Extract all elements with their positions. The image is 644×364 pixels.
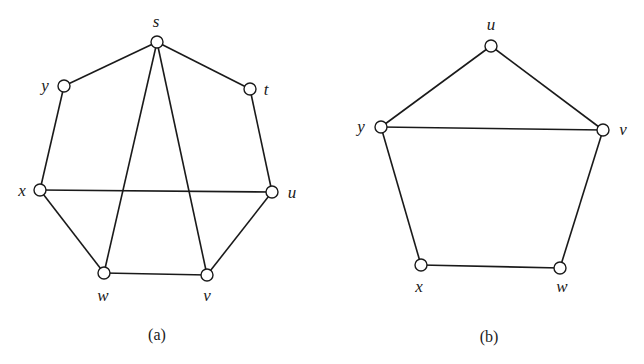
edge-y-x	[40, 86, 64, 190]
edge-x-u	[40, 190, 272, 192]
vertex-label-t: t	[264, 80, 270, 99]
edge-x-w	[421, 265, 560, 268]
vertex-w	[554, 262, 566, 274]
vertex-label-y: y	[355, 117, 365, 136]
edge-y-v	[381, 127, 603, 130]
edge-s-v	[157, 42, 207, 275]
edge-w-v	[104, 273, 207, 275]
edge-s-t	[157, 42, 250, 89]
vertex-label-y: y	[39, 76, 49, 95]
graph-figure: stuvwxy(a) uvwxy(b)	[0, 0, 644, 364]
edge-t-u	[250, 89, 272, 192]
edge-x-w	[40, 190, 104, 273]
edge-s-w	[104, 42, 157, 273]
vertex-x	[415, 259, 427, 271]
caption-b: (b)	[480, 328, 499, 346]
edge-u-v	[207, 192, 272, 275]
vertex-y	[375, 121, 387, 133]
vertex-t	[244, 83, 256, 95]
vertex-u	[266, 186, 278, 198]
edge-s-y	[64, 42, 157, 86]
edge-u-y	[381, 46, 491, 127]
vertex-label-u: u	[487, 15, 496, 34]
vertex-x	[34, 184, 46, 196]
edge-w-v	[560, 130, 603, 268]
graph-a: stuvwxy(a)	[17, 12, 296, 344]
vertex-label-s: s	[153, 12, 160, 31]
vertex-s	[151, 36, 163, 48]
vertex-label-u: u	[288, 183, 297, 202]
vertex-label-x: x	[17, 181, 26, 200]
vertex-label-v: v	[203, 286, 211, 305]
vertex-label-w: w	[97, 286, 109, 305]
edge-u-v	[491, 46, 603, 130]
vertex-label-v: v	[619, 120, 627, 139]
vertex-label-x: x	[414, 277, 423, 296]
vertex-label-w: w	[556, 277, 568, 296]
vertex-v	[597, 124, 609, 136]
caption-a: (a)	[148, 326, 166, 344]
edge-y-x	[381, 127, 421, 265]
vertex-v	[201, 269, 213, 281]
vertex-y	[58, 80, 70, 92]
graph-b: uvwxy(b)	[355, 15, 627, 346]
vertex-u	[485, 40, 497, 52]
vertex-w	[98, 267, 110, 279]
